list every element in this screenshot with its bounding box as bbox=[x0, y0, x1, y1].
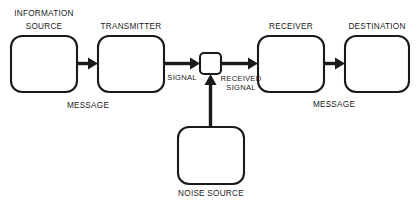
label-signal: SIGNAL bbox=[167, 73, 196, 82]
node-transmitter[interactable] bbox=[98, 36, 164, 92]
node-destination[interactable] bbox=[345, 36, 409, 92]
arrow-noise-to-junction bbox=[205, 74, 217, 127]
label-noise-source: NOISE SOURCE bbox=[178, 189, 244, 198]
label-message-left: MESSAGE bbox=[67, 101, 110, 110]
arrow-junction-to-receiver bbox=[221, 58, 258, 70]
label-information-source-line2: SOURCE bbox=[26, 22, 63, 31]
label-information-source-line1: INFORMATION bbox=[14, 9, 73, 18]
node-noise-source[interactable] bbox=[178, 127, 244, 184]
node-receiver[interactable] bbox=[258, 36, 324, 92]
label-destination: DESTINATION bbox=[348, 22, 405, 31]
diagram-canvas: INFORMATION SOURCE TRANSMITTER RECEIVER … bbox=[0, 0, 419, 206]
arrow-receiver-to-destination bbox=[324, 58, 345, 70]
label-receiver: RECEIVER bbox=[269, 22, 313, 31]
shannon-communication-diagram: INFORMATION SOURCE TRANSMITTER RECEIVER … bbox=[0, 0, 419, 206]
label-received-signal-line2: SIGNAL bbox=[226, 83, 255, 92]
node-information-source[interactable] bbox=[11, 36, 77, 92]
arrow-source-to-transmitter bbox=[77, 58, 98, 70]
label-transmitter: TRANSMITTER bbox=[101, 22, 162, 31]
label-message-right: MESSAGE bbox=[313, 100, 356, 109]
signal-junction-box[interactable] bbox=[200, 53, 221, 74]
label-received-signal-line1: RECEIVED bbox=[221, 74, 262, 83]
arrow-transmitter-to-junction bbox=[164, 58, 200, 70]
